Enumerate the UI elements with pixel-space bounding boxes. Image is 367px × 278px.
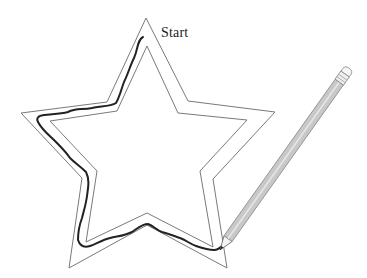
pencil-icon: [216, 65, 354, 253]
star-tracing-figure: [0, 0, 367, 278]
start-label: Start: [161, 25, 188, 41]
pencil-highlight: [228, 82, 339, 239]
inner-star-outline: [50, 46, 247, 247]
traced-line: [37, 37, 222, 250]
